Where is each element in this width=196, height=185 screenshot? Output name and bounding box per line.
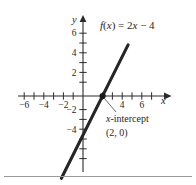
x-tick-label-minus6: −6	[19, 100, 29, 110]
y-axis-label: y	[71, 14, 77, 25]
function-label: f(x) = 2x − 4	[100, 19, 155, 32]
y-tick-label-2: 2	[72, 68, 77, 78]
x-tick-label-4: 4	[120, 100, 125, 110]
x-axis-label: x	[160, 95, 166, 106]
x-intercept-point	[100, 93, 106, 99]
x-tick-label-minus4: −4	[39, 100, 49, 110]
y-tick-label-6: 6	[72, 28, 77, 38]
y-tick-label-minus4: −4	[66, 125, 76, 135]
y-axis-arrow-icon	[80, 15, 87, 22]
graph-figure: −6 −4 −2 4 6 6 4 2 −2 −4 x y f(x) = 2x −…	[0, 0, 196, 185]
annotation-leader-line	[105, 99, 117, 112]
y-tick-label-minus2: −2	[66, 105, 76, 115]
x-intercept-coordinates: (2, 0)	[106, 127, 128, 139]
coordinate-plane: −6 −4 −2 4 6 6 4 2 −2 −4 x y f(x) = 2x −…	[0, 0, 196, 185]
y-tick-label-4: 4	[72, 48, 77, 58]
x-intercept-annotation-label: x-intercept	[105, 113, 149, 124]
x-tick-label-6: 6	[139, 100, 144, 110]
bottom-divider	[4, 176, 192, 177]
